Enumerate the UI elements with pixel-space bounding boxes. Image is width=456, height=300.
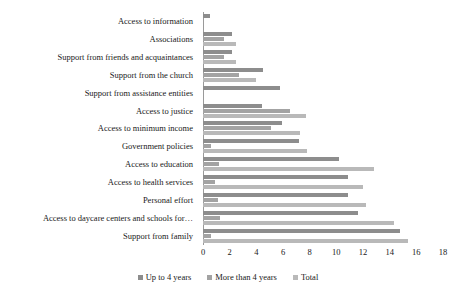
bar-chart: Access to informationAssociationsSupport… [0,0,456,300]
axis-tick-label: 18 [439,246,448,258]
legend-label: Total [301,272,318,283]
bar [203,60,236,64]
bar [203,139,299,143]
category-label: Support from assistance entities [0,84,198,102]
axis-tick-label: 6 [281,246,285,258]
category-label: Support from family [0,227,198,245]
axis-tick-label: 0 [201,246,205,258]
category-label: Support from the church [0,66,198,84]
legend-label: More than 4 years [215,272,277,283]
legend-item[interactable]: More than 4 years [207,272,277,283]
category-label: Access to daycare centers and schools fo… [0,209,198,227]
legend-swatch-icon [293,275,298,280]
legend-item[interactable]: Up to 4 years [138,272,192,283]
bar-group [203,155,443,173]
bar [203,180,215,184]
chart-legend: Up to 4 yearsMore than 4 yearsTotal [0,272,456,283]
bar-group [203,191,443,209]
bar [203,221,394,225]
bar [203,73,239,77]
bar [203,203,366,207]
bar [203,216,220,220]
bar-group [203,120,443,138]
bar [203,121,282,125]
bar-group [203,48,443,66]
bar [203,104,262,108]
bar [203,157,339,161]
bar [203,131,300,135]
category-label: Access to health services [0,173,198,191]
bar [203,55,224,59]
axis-tick-label: 10 [332,246,341,258]
category-label: Access to minimum income [0,120,198,138]
bar [203,42,236,46]
bar-group [203,12,443,30]
category-label: Access to education [0,155,198,173]
bar-group [203,227,443,245]
bar [203,167,374,171]
bar [203,162,219,166]
bar [203,239,408,243]
category-label: Access to information [0,12,198,30]
axis-tick-label: 2 [228,246,232,258]
axis-tick-label: 4 [254,246,258,258]
bar [203,149,307,153]
bar-group [203,84,443,102]
bar [203,50,232,54]
legend-swatch-icon [138,275,143,280]
plot-area [203,12,443,245]
bar-group [203,137,443,155]
bar [203,86,280,90]
bar [203,78,256,82]
bar [203,185,363,189]
bar [203,198,218,202]
bar [203,211,358,215]
bar [203,68,263,72]
bar [203,144,211,148]
legend-label: Up to 4 years [146,272,192,283]
bar-group [203,102,443,120]
legend-swatch-icon [207,275,212,280]
bar-group [203,66,443,84]
bar-group [203,173,443,191]
bar [203,229,400,233]
bar [203,175,348,179]
bar [203,193,348,197]
axis-tick-label: 12 [359,246,368,258]
bar [203,114,306,118]
bar [203,32,232,36]
bar-group [203,209,443,227]
axis-tick-label: 16 [412,246,421,258]
value-axis-ticks: 024681012141618 [203,246,443,260]
bar [203,234,211,238]
bar [203,37,224,41]
category-label: Associations [0,30,198,48]
category-label: Access to justice [0,102,198,120]
bar-group [203,30,443,48]
axis-tick-label: 8 [308,246,312,258]
category-label: Government policies [0,137,198,155]
bar [203,126,271,130]
legend-item[interactable]: Total [293,272,318,283]
axis-tick-label: 14 [385,246,394,258]
category-label: Support from friends and acquaintances [0,48,198,66]
category-axis-labels: Access to informationAssociationsSupport… [0,12,198,245]
bar [203,109,290,113]
category-label: Personal effort [0,191,198,209]
bar [203,14,210,18]
